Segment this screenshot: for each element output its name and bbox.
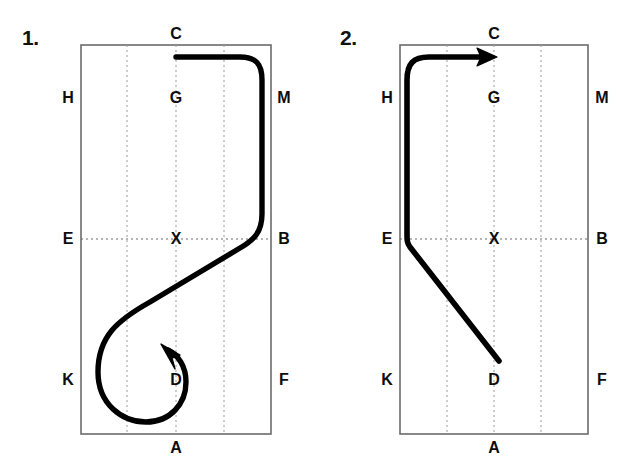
arena-1-marker-a: A — [170, 440, 182, 456]
arena-1-marker-e: E — [63, 231, 74, 247]
arena-1-marker-k: K — [62, 372, 74, 388]
arena-1-marker-g: G — [170, 90, 182, 106]
arena-1-graphic — [0, 0, 318, 472]
arena-2-marker-g: G — [488, 90, 500, 106]
arena-1-marker-b: B — [278, 231, 290, 247]
arena-1-marker-c: C — [170, 26, 182, 42]
arena-2-marker-x: X — [489, 231, 500, 247]
arena-2-marker-e: E — [382, 231, 393, 247]
arena-2-graphic — [318, 0, 636, 472]
arena-2-marker-m: M — [595, 90, 608, 106]
arena-2-marker-h: H — [381, 90, 393, 106]
arena-1-marker-h: H — [62, 90, 74, 106]
arena-1-marker-f: F — [279, 372, 289, 388]
arena-2-marker-b: B — [596, 231, 608, 247]
arena-1-marker-x: X — [171, 231, 182, 247]
arena-1-marker-d: D — [170, 372, 182, 388]
arena-2-movement-path — [407, 57, 499, 361]
arena-2-marker-a: A — [488, 440, 500, 456]
arena-2-marker-c: C — [488, 26, 500, 42]
arena-2-marker-f: F — [597, 372, 607, 388]
arena-1-marker-m: M — [277, 90, 290, 106]
arena-2-marker-d: D — [488, 372, 500, 388]
diagram-panel-1: 1. C H G M E X B K D F A — [0, 0, 318, 472]
arena-1-arrowhead-icon — [161, 344, 180, 369]
diagram-panel-2: 2. C H G M E X B K D F A — [318, 0, 636, 472]
diagram-canvas: 1. C H G M E X B K D F A 2. — [0, 0, 636, 472]
arena-2-marker-k: K — [381, 372, 393, 388]
